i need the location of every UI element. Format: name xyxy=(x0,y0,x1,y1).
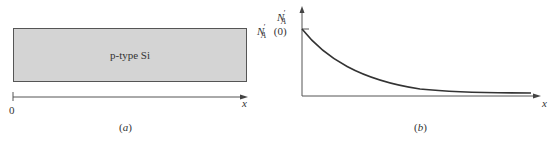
panel-b-x-label: x xyxy=(542,98,547,109)
panel-b-x-axis xyxy=(302,94,541,99)
panel-a-caption: (a) xyxy=(119,122,132,133)
panel-b-decay-curve xyxy=(302,29,531,93)
panel-b-caption: (b) xyxy=(414,122,427,133)
axis-origin-label: 0 xyxy=(9,105,15,116)
panel-a-x-label: x xyxy=(242,98,247,109)
panel-b-y-axis xyxy=(300,6,310,96)
panel-a-x-axis xyxy=(13,92,248,101)
panel-b-y-tick-label: N′A (0) xyxy=(257,23,287,40)
